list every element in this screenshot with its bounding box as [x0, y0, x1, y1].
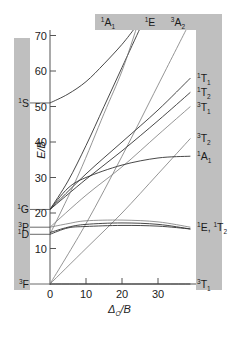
- y-tick-label: 20: [35, 207, 47, 219]
- energy-curves: [50, 28, 190, 284]
- energy-curve: [50, 28, 136, 234]
- y-tick-label: 10: [35, 243, 47, 255]
- y-tick-label: 50: [35, 101, 47, 113]
- energy-curve: [50, 107, 190, 228]
- y-tick-label: 30: [35, 172, 47, 184]
- energy-curve: [50, 28, 140, 209]
- x-tick-label: 10: [80, 288, 92, 300]
- y-axis-title: E/B: [35, 141, 47, 159]
- x-axis-title: ΔO/B: [107, 303, 131, 317]
- x-tick-label: 20: [116, 288, 128, 300]
- energy-curve: [50, 156, 190, 209]
- x-tick-label: 30: [152, 288, 164, 300]
- left-term-band: [14, 38, 30, 290]
- right-label: 1E, 1T2: [197, 221, 228, 235]
- energy-curve: [50, 92, 190, 209]
- y-tick-label: 60: [35, 65, 47, 77]
- tanabe-sugano-diagram: 10203040506070 0102030 E/B ΔO/B 1S1G3P1D…: [0, 0, 240, 338]
- y-tick-label: 70: [35, 30, 47, 42]
- x-ticks: 0102030: [47, 278, 164, 300]
- x-tick-label: 0: [47, 288, 53, 300]
- energy-curve: [50, 28, 187, 284]
- energy-curve: [50, 28, 135, 103]
